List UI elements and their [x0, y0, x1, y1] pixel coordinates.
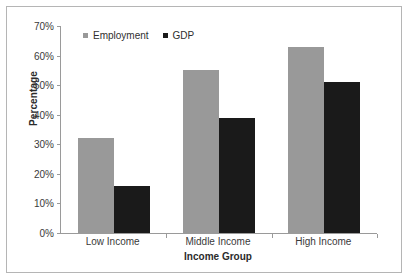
bar-employment-high-income[interactable]	[288, 47, 324, 233]
legend-label: GDP	[173, 30, 195, 41]
y-tick-label: 0%	[40, 228, 54, 239]
legend-swatch-icon	[163, 33, 168, 38]
y-axis-tick-labels: 0%10%20%30%40%50%60%70%	[14, 20, 54, 234]
chart-legend: EmploymentGDP	[83, 30, 194, 41]
bar-group	[166, 26, 271, 233]
y-tick-mark	[57, 56, 61, 57]
y-tick-mark	[57, 174, 61, 175]
y-tick-label: 30%	[34, 139, 54, 150]
bar-group	[61, 26, 166, 233]
y-tick-label: 10%	[34, 198, 54, 209]
y-tick-label: 50%	[34, 80, 54, 91]
legend-swatch-icon	[83, 33, 88, 38]
x-tick-label: Middle Income	[165, 236, 270, 247]
bar-groups	[61, 26, 377, 233]
legend-label: Employment	[93, 30, 149, 41]
y-tick-mark	[57, 26, 61, 27]
y-tick-label: 70%	[34, 21, 54, 32]
x-tick-label: Low Income	[60, 236, 165, 247]
x-tick-label: High Income	[271, 236, 376, 247]
y-tick-label: 40%	[34, 109, 54, 120]
y-tick-label: 60%	[34, 50, 54, 61]
legend-item-employment[interactable]: Employment	[83, 30, 149, 41]
x-axis-tick-labels: Low IncomeMiddle IncomeHigh Income	[60, 236, 376, 247]
y-tick-mark	[57, 115, 61, 116]
y-tick-mark	[57, 203, 61, 204]
bar-group	[272, 26, 377, 233]
bar-employment-middle-income[interactable]	[183, 70, 219, 233]
plot-area: EmploymentGDP	[60, 26, 377, 234]
y-tick-mark	[57, 233, 61, 234]
bar-employment-low-income[interactable]	[78, 138, 114, 233]
y-tick-label: 20%	[34, 168, 54, 179]
bar-gdp-middle-income[interactable]	[219, 118, 255, 233]
legend-item-gdp[interactable]: GDP	[163, 30, 195, 41]
bar-gdp-low-income[interactable]	[114, 186, 150, 233]
x-axis-title: Income Group	[60, 251, 376, 262]
x-tick-mark	[377, 234, 378, 238]
y-tick-mark	[57, 144, 61, 145]
bar-gdp-high-income[interactable]	[324, 82, 360, 233]
y-tick-mark	[57, 85, 61, 86]
bar-chart: Percentage 0%10%20%30%40%50%60%70% Emplo…	[0, 0, 408, 279]
